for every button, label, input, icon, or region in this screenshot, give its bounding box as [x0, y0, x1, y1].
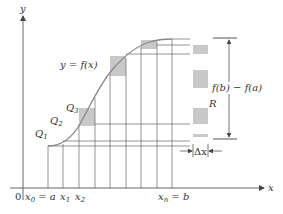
stack-rect — [193, 70, 208, 88]
point-q1-label: Q1 — [35, 128, 48, 141]
y-axis-label: y — [19, 3, 26, 14]
point-q3-label: Q3 — [66, 102, 79, 115]
x-axis-label: x — [268, 182, 274, 193]
region-label: R — [208, 98, 217, 109]
curve-rect — [110, 56, 126, 76]
origin-label: 0 — [15, 191, 21, 202]
height-label: f(b) − f(a) — [211, 82, 262, 93]
riemann-diagram: y x 0 y = f(x) Q1 Q2 Q3 x0 = a x1 x2 xn … — [0, 0, 283, 214]
point-q2-label: Q2 — [50, 115, 63, 128]
stack-rect — [193, 108, 208, 124]
tick-xn-label: xn = b — [158, 191, 189, 204]
tick-x0-label: x0 = a — [25, 191, 56, 204]
stack-rect — [193, 45, 208, 54]
tick-x2-label: x2 — [75, 191, 86, 204]
stack-rect — [193, 134, 208, 137]
curve-label: y = f(x) — [59, 59, 98, 70]
tick-x1-label: x1 — [60, 191, 70, 204]
dx-label: Δx — [194, 146, 207, 157]
